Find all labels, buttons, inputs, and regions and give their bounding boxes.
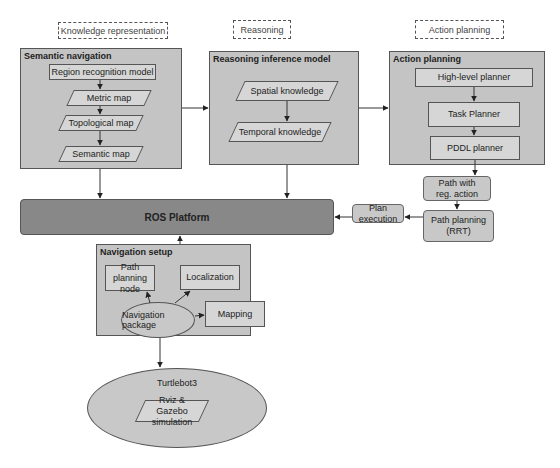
phase-action-planning: Action planning xyxy=(415,20,504,39)
group-title: Navigation setup xyxy=(100,247,173,257)
node-label: Topological map xyxy=(68,118,133,129)
node-label: Mapping xyxy=(218,309,253,320)
reasoning-inference-group: Reasoning inference model xyxy=(209,51,359,165)
metric-map[interactable]: Metric map xyxy=(70,90,148,106)
group-title: Semantic navigation xyxy=(24,51,112,61)
node-label: Path with reg. action xyxy=(432,178,482,200)
high-level-planner[interactable]: High-level planner xyxy=(415,68,533,87)
path-with-reg-action[interactable]: Path with reg. action xyxy=(423,176,491,201)
phase-label: Knowledge representation xyxy=(61,26,166,36)
task-planner[interactable]: Task Planner xyxy=(428,102,520,127)
node-label: Plan execution xyxy=(353,203,403,225)
group-title: Action planning xyxy=(393,54,461,64)
node-label: Region recognition model xyxy=(51,67,153,78)
node-label: Rviz & Gazebo simulation xyxy=(144,395,200,428)
group-title: Reasoning inference model xyxy=(213,54,331,64)
node-label: Navigation package xyxy=(122,310,194,330)
node-label: Temporal knowledge xyxy=(239,127,322,138)
node-label: ROS Platform xyxy=(144,212,209,223)
localization[interactable]: Localization xyxy=(180,265,240,290)
phase-reasoning: Reasoning xyxy=(233,20,291,39)
region-recognition-model[interactable]: Region recognition model xyxy=(49,64,156,80)
node-label: Semantic map xyxy=(72,149,130,160)
phase-label: Action planning xyxy=(429,25,491,35)
node-label: Path planning (RRT) xyxy=(429,215,489,237)
plan-execution[interactable]: Plan execution xyxy=(352,204,404,223)
node-label: Localization xyxy=(186,272,234,283)
node-label: Spatial knowledge xyxy=(250,86,323,97)
spatial-knowledge[interactable]: Spatial knowledge xyxy=(240,81,334,101)
semantic-map[interactable]: Semantic map xyxy=(62,146,140,162)
temporal-knowledge[interactable]: Temporal knowledge xyxy=(233,122,327,142)
node-label: Metric map xyxy=(87,93,132,104)
path-planning-node[interactable]: Path planning node xyxy=(105,265,155,291)
node-label: Task Planner xyxy=(448,109,500,120)
pddl-planner[interactable]: PDDL planner xyxy=(430,136,520,160)
node-label: Path planning node xyxy=(108,262,152,295)
ros-platform[interactable]: ROS Platform xyxy=(20,199,334,235)
mapping[interactable]: Mapping xyxy=(205,301,265,327)
phase-knowledge-representation: Knowledge representation xyxy=(58,22,168,39)
rviz-gazebo-simulation[interactable]: Rviz & Gazebo simulation xyxy=(140,400,204,422)
node-label: PDDL planner xyxy=(447,143,503,154)
navigation-package[interactable]: Navigation package xyxy=(121,302,195,338)
phase-label: Reasoning xyxy=(240,25,283,35)
turtlebot-title: Turtlebot3 xyxy=(88,378,266,388)
node-label: High-level planner xyxy=(438,72,511,83)
path-planning-rrt[interactable]: Path planning (RRT) xyxy=(423,210,494,242)
topological-map[interactable]: Topological map xyxy=(62,115,140,131)
